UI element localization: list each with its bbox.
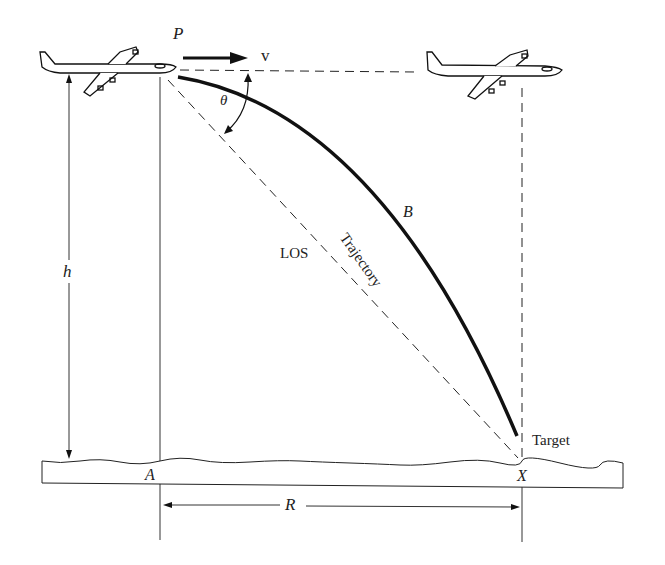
altitude-label-h: h xyxy=(63,262,72,282)
bombing-trajectory-diagram: P v θ h LOS Trajectory B Target A X R xyxy=(0,0,665,565)
range-label-r: R xyxy=(285,495,295,515)
aircraft-left-icon xyxy=(40,47,176,96)
range-arrow xyxy=(163,502,520,510)
diagram-canvas xyxy=(0,0,665,565)
los-label: LOS xyxy=(280,245,308,262)
theta-label: θ xyxy=(220,92,227,109)
line-of-sight xyxy=(168,80,518,458)
velocity-arrow xyxy=(183,52,248,64)
aircraft-label-p: P xyxy=(173,24,183,44)
horizontal-reference-line xyxy=(180,70,416,72)
ground-strip xyxy=(42,458,623,488)
aircraft-right-icon xyxy=(427,50,562,99)
velocity-label: v xyxy=(261,46,270,66)
theta-angle-arc xyxy=(224,73,252,134)
point-a-label: A xyxy=(145,466,155,484)
point-b-label: B xyxy=(403,203,413,221)
point-x-label: X xyxy=(517,467,527,485)
target-label: Target xyxy=(532,432,570,449)
